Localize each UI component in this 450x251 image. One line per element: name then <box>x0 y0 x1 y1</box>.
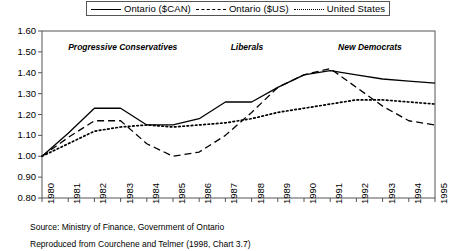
x-axis-tick-label: 1988 <box>256 183 266 204</box>
x-axis-tick-label: 1980 <box>46 183 56 204</box>
series-line-0 <box>42 71 435 157</box>
x-axis-tick-label: 1985 <box>177 183 187 204</box>
era-annotation-label: Liberals <box>231 42 264 52</box>
x-axis-tick-label: 1989 <box>282 183 292 204</box>
y-axis-tick-label: 1.40 <box>6 68 36 78</box>
x-axis-tick-label: 1984 <box>151 183 161 204</box>
y-axis-tick-label: 1.00 <box>6 151 36 161</box>
x-axis-tick-label: 1982 <box>98 183 108 204</box>
plot-frame <box>42 31 435 198</box>
chart-figure: Ontario ($CAN) Ontario ($US) United Stat… <box>0 0 450 251</box>
y-axis-tick-label: 1.50 <box>6 47 36 57</box>
era-annotation-label: Progressive Conservatives <box>68 42 177 52</box>
x-axis-tick-label: 1994 <box>413 183 423 204</box>
x-axis-tick-label: 1993 <box>387 183 397 204</box>
plot-area <box>0 0 450 251</box>
y-axis-tick-label: 1.20 <box>6 110 36 120</box>
x-axis-tick-label: 1987 <box>229 183 239 204</box>
x-axis-tick-label: 1983 <box>125 183 135 204</box>
x-axis-tick-label: 1981 <box>72 183 82 204</box>
y-axis-tick-label: 0.80 <box>6 193 36 203</box>
era-annotation-label: New Democrats <box>338 42 402 52</box>
x-axis-tick-label: 1995 <box>439 183 449 204</box>
y-axis-tick-label: 1.60 <box>6 26 36 36</box>
series-line-1 <box>42 69 435 157</box>
source-note: Source: Ministry of Finance, Government … <box>30 222 224 232</box>
x-axis-tick-label: 1991 <box>334 183 344 204</box>
y-axis-tick-label: 1.30 <box>6 89 36 99</box>
x-axis-tick-label: 1992 <box>360 183 370 204</box>
reproduced-note: Reproduced from Courchene and Telmer (19… <box>30 239 251 249</box>
y-axis-tick-label: 1.10 <box>6 130 36 140</box>
x-axis-tick-label: 1990 <box>308 183 318 204</box>
y-axis-tick-label: 0.90 <box>6 172 36 182</box>
x-axis-tick-label: 1986 <box>203 183 213 204</box>
